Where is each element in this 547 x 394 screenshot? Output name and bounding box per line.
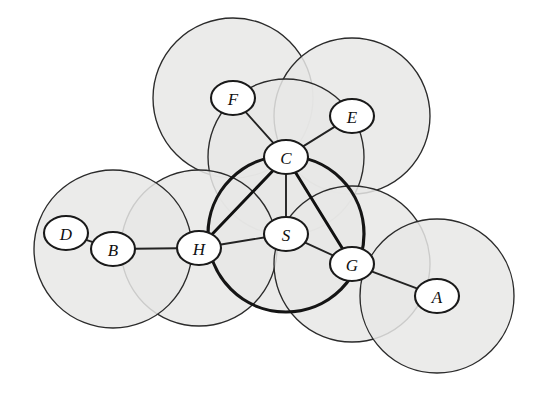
node-label-f: F [227,90,239,109]
node-label-s: S [282,226,291,245]
node-c[interactable]: C [264,140,308,174]
graph-canvas: FECSHBDGA [0,0,547,394]
node-label-a: A [431,288,443,307]
node-d[interactable]: D [44,216,88,250]
node-b[interactable]: B [91,232,135,266]
node-label-h: H [192,240,207,259]
disk-graph-diagram: FECSHBDGA [0,0,547,394]
node-f[interactable]: F [211,81,255,115]
node-label-c: C [280,149,292,168]
node-h[interactable]: H [177,231,221,265]
node-label-e: E [346,108,358,127]
node-e[interactable]: E [330,99,374,133]
node-label-d: D [59,225,73,244]
node-a[interactable]: A [415,279,459,313]
range-disks-layer [34,18,514,373]
node-label-b: B [108,241,119,260]
edge-b-h [134,248,178,249]
node-label-g: G [346,256,358,275]
node-g[interactable]: G [330,247,374,281]
node-s[interactable]: S [264,217,308,251]
